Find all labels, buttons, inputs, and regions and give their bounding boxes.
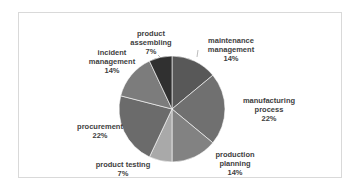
label-percent: 14%	[196, 54, 266, 63]
label-percent: 22%	[232, 114, 306, 123]
label-text: manufacturing	[232, 96, 306, 105]
label-percent: 14%	[205, 168, 265, 177]
label-procurement: procurement 22%	[72, 122, 128, 140]
label-percent: 7%	[126, 47, 176, 56]
label-text: product testing	[90, 160, 156, 169]
label-maintenance-management: maintenance management 14%	[196, 36, 266, 63]
label-text: process	[232, 105, 306, 114]
label-percent: 22%	[72, 131, 128, 140]
label-text: management	[80, 57, 144, 66]
label-manufacturing-process: manufacturing process 22%	[232, 96, 306, 123]
label-text: maintenance	[196, 36, 266, 45]
label-text: procurement	[72, 122, 128, 131]
label-text: assembling	[126, 38, 176, 47]
label-text: management	[196, 45, 266, 54]
label-production-planning: production planning 14%	[205, 150, 265, 177]
label-text: planning	[205, 159, 265, 168]
label-text: product	[126, 29, 176, 38]
label-product-testing: product testing 7%	[90, 160, 156, 178]
label-text: production	[205, 150, 265, 159]
label-percent: 14%	[80, 66, 144, 75]
label-percent: 7%	[90, 169, 156, 178]
label-product-assembling: product assembling 7%	[126, 29, 176, 56]
